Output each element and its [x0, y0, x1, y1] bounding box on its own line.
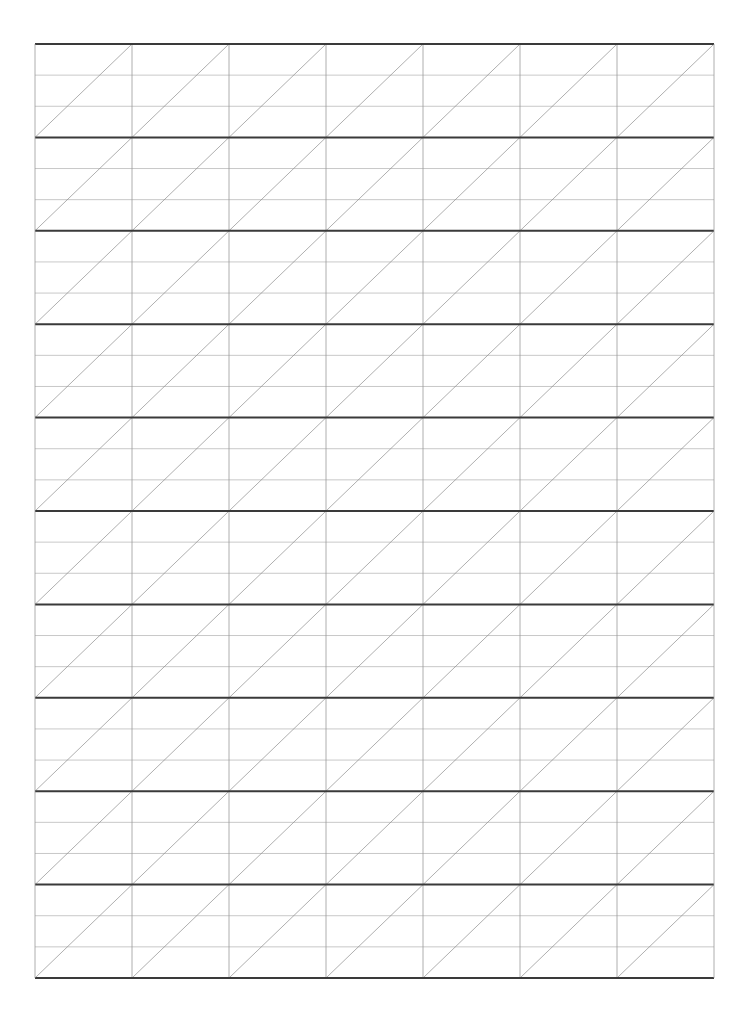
practice-grid-canvas — [0, 0, 745, 1013]
paper-background — [0, 0, 745, 1013]
practice-sheet-page — [0, 0, 745, 1013]
